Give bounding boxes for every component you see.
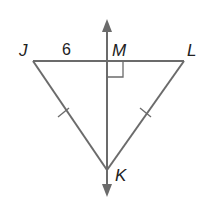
label-M: M	[112, 41, 127, 60]
arrow-down-icon	[102, 184, 112, 197]
label-L: L	[187, 41, 196, 60]
arrow-up-icon	[102, 19, 112, 32]
label-K: K	[115, 166, 127, 185]
label-JM-length: 6	[62, 41, 71, 58]
label-J: J	[18, 41, 28, 60]
triangle-diagram: J 6 M L K	[0, 0, 207, 205]
right-angle-mark	[107, 61, 123, 77]
segment-JK	[33, 61, 107, 170]
